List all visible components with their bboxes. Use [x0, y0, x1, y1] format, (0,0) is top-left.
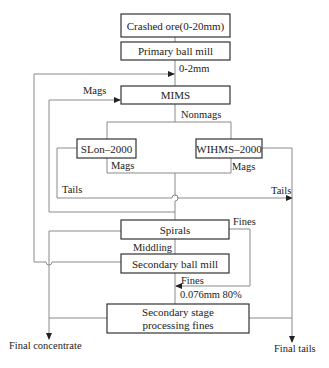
- node-crushed-ore: Crashed ore(0-20mm): [121, 14, 230, 37]
- svg-text:Secondary stage: Secondary stage: [142, 306, 214, 318]
- svg-text:Crashed ore(0-20mm): Crashed ore(0-20mm): [127, 20, 225, 33]
- svg-text:0-2mm: 0-2mm: [179, 63, 209, 74]
- svg-text:Fines: Fines: [181, 275, 204, 286]
- node-slon: SLon–2000: [77, 139, 136, 158]
- node-mims: MIMS: [121, 86, 230, 104]
- svg-text:Mags: Mags: [83, 85, 106, 96]
- svg-text:processing fines: processing fines: [142, 319, 213, 331]
- svg-text:Middling: Middling: [133, 242, 173, 253]
- svg-text:Tails: Tails: [62, 184, 82, 195]
- svg-text:Spirals: Spirals: [160, 224, 191, 236]
- node-secondary-stage: Secondary stage processing fines: [107, 304, 249, 333]
- svg-text:SLon–2000: SLon–2000: [81, 143, 133, 155]
- node-wihms: WIHMS–2000: [196, 139, 262, 158]
- svg-text:Tails: Tails: [271, 185, 291, 196]
- node-secondary-ball-mill: Secondary ball mill: [121, 254, 229, 273]
- svg-text:Nonmags: Nonmags: [181, 109, 221, 120]
- svg-text:Primary ball mill: Primary ball mill: [138, 45, 213, 57]
- svg-text:Fines: Fines: [233, 216, 256, 227]
- svg-text:WIHMS–2000: WIHMS–2000: [196, 143, 262, 155]
- svg-text:0.076mm 80%: 0.076mm 80%: [180, 289, 242, 300]
- final-concentrate-label: Final concentrate: [9, 340, 82, 351]
- svg-text:MIMS: MIMS: [161, 89, 190, 101]
- final-tails-label: Final tails: [274, 343, 316, 354]
- node-spirals: Spirals: [121, 220, 229, 239]
- node-primary-ball-mill: Primary ball mill: [121, 42, 230, 60]
- svg-text:Mags: Mags: [232, 161, 255, 172]
- svg-text:Mags: Mags: [111, 160, 134, 171]
- svg-text:Secondary ball mill: Secondary ball mill: [132, 258, 218, 270]
- flowsheet-diagram: Crashed ore(0-20mm) Primary ball mill MI…: [0, 0, 329, 368]
